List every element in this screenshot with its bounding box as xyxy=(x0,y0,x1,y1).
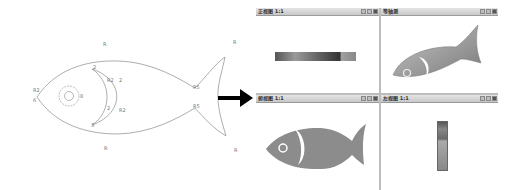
eye-outer xyxy=(59,86,79,106)
dim-label: 6 xyxy=(33,97,36,103)
dim-label: R2 xyxy=(107,77,114,83)
viewport-title: 等轴测 xyxy=(383,8,398,15)
minimize-icon[interactable] xyxy=(361,96,366,101)
dim-label: 2 xyxy=(93,64,96,70)
dim-label: R5 xyxy=(193,84,200,90)
viewport-titlebar[interactable]: 俯视图 1:1 xyxy=(256,95,379,103)
viewport-side[interactable]: 左视图 1:1 xyxy=(381,95,525,190)
restore-icon[interactable] xyxy=(486,9,491,14)
dim-label: R xyxy=(104,145,108,151)
eye-inner xyxy=(65,92,74,101)
dim-label: R xyxy=(233,39,237,45)
dim-label: R2 xyxy=(33,87,40,93)
minimize-icon[interactable] xyxy=(480,96,485,101)
dim-label: 2 xyxy=(107,105,110,111)
fish-top-view xyxy=(275,52,356,61)
viewport-title: 左视图 1:1 xyxy=(383,95,409,102)
viewport-titlebar[interactable]: 正视图 1:1 xyxy=(256,8,379,16)
fish-front-view xyxy=(256,103,379,188)
maximize-icon[interactable] xyxy=(373,96,378,101)
viewport-titlebar[interactable]: 左视图 1:1 xyxy=(381,95,498,103)
maximize-icon[interactable] xyxy=(492,9,497,14)
dim-label: R2 xyxy=(119,107,126,113)
viewport-isometric[interactable]: 等轴测 xyxy=(381,8,525,93)
restore-icon[interactable] xyxy=(367,9,372,14)
fish-sketch: R 2 R2 2 2 R2 3 R2 6 8 R R5 R5 R R xyxy=(0,0,255,190)
restore-icon[interactable] xyxy=(486,96,491,101)
viewport-top[interactable]: 正视图 1:1 xyxy=(256,8,379,93)
dim-label: 8 xyxy=(80,93,83,99)
maximize-icon[interactable] xyxy=(492,96,497,101)
viewport-title: 正视图 1:1 xyxy=(258,8,284,15)
gill-arc-inner xyxy=(92,69,107,125)
fish-outline xyxy=(37,57,226,136)
viewport-divider-vertical[interactable] xyxy=(379,8,381,190)
maximize-icon[interactable] xyxy=(373,9,378,14)
fish-isometric-view xyxy=(381,15,496,93)
viewport-title: 俯视图 1:1 xyxy=(258,95,284,102)
minimize-icon[interactable] xyxy=(361,9,366,14)
fish-side-view xyxy=(437,121,448,171)
transform-arrow-icon xyxy=(218,88,254,108)
restore-icon[interactable] xyxy=(367,96,372,101)
dim-label: 3 xyxy=(91,122,94,128)
dim-label: R5 xyxy=(193,103,200,109)
dim-label: 2 xyxy=(119,77,122,83)
dim-label: R xyxy=(234,147,238,153)
dim-label: R xyxy=(103,41,107,47)
viewport-divider-horizontal[interactable] xyxy=(256,93,498,95)
minimize-icon[interactable] xyxy=(480,9,485,14)
viewport-front[interactable]: 俯视图 1:1 xyxy=(256,95,379,190)
